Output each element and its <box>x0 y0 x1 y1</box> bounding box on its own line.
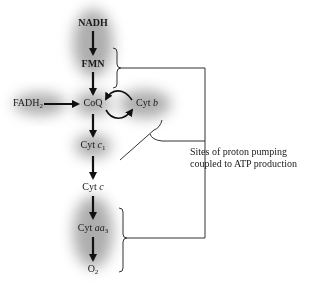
proton-pumping-annotation: Sites of proton pumping coupled to ATP p… <box>190 146 297 170</box>
node-cytc-label: Cyt <box>82 181 99 192</box>
node-cytaa3-italic: aa <box>95 222 105 233</box>
annotation-line2: coupled to ATP production <box>190 158 297 170</box>
node-cytc1: Cyt c1 <box>81 140 106 152</box>
diagram-graphics <box>0 0 331 286</box>
node-cytc-italic: c <box>99 181 103 192</box>
node-nadh: NADH <box>78 18 107 28</box>
node-o2: O2 <box>88 264 99 276</box>
node-cytaa3-subscript: 3 <box>105 227 109 235</box>
node-cytaa3: Cyt aa3 <box>78 223 108 235</box>
node-coq: CoQ <box>84 98 103 108</box>
node-cytaa3-label: Cyt <box>78 222 95 233</box>
bracket-site3 <box>119 208 127 272</box>
node-cytb-label: Cyt <box>136 97 153 108</box>
node-fadh2: FADH2 <box>13 98 43 110</box>
node-cytb: Cyt b <box>136 98 158 108</box>
node-o2-subscript: 2 <box>95 268 99 276</box>
node-cytc1-subscript: 1 <box>102 144 106 152</box>
annotation-line1: Sites of proton pumping <box>190 146 297 158</box>
node-fadh2-label: FADH <box>13 97 39 108</box>
node-fadh2-subscript: 2 <box>39 102 43 110</box>
electron-transport-chain-diagram: NADH FMN FADH2 CoQ Cyt b Cyt c1 Cyt c Cy… <box>0 0 331 286</box>
node-cytc1-label: Cyt <box>81 139 98 150</box>
node-coq-label: CoQ <box>84 97 103 108</box>
node-cytb-italic: b <box>153 97 158 108</box>
bracket-site1 <box>113 48 121 88</box>
node-nadh-label: NADH <box>78 17 107 28</box>
node-cytc: Cyt c <box>82 182 103 192</box>
node-fmn: FMN <box>82 59 105 69</box>
node-fmn-label: FMN <box>82 58 105 69</box>
